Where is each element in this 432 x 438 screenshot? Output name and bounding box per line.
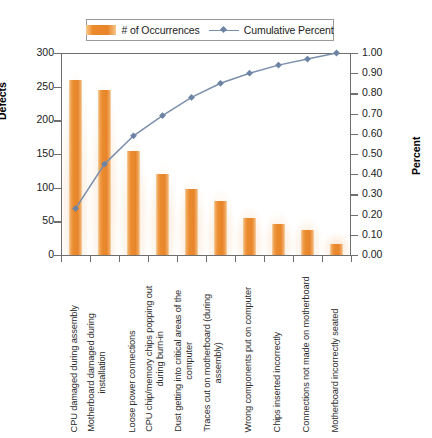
- category-label-line: Traces cut on motherboard (during: [202, 294, 213, 432]
- x-axis-tick-mark: [90, 255, 91, 262]
- x-axis-category-label: Loose power connections: [126, 330, 137, 432]
- y-axis-tick-label: 300: [10, 46, 54, 58]
- cumulative-line-marker: [217, 80, 224, 87]
- x-axis-tick-mark: [148, 255, 149, 262]
- category-label-line: Loose power connections: [126, 330, 137, 432]
- x-axis-tick-mark: [322, 255, 323, 262]
- cumulative-line-path: [76, 53, 337, 209]
- y2-axis-tick-label: 0.70: [362, 107, 382, 119]
- x-axis-category-label: Connections not made on motherboard: [300, 276, 311, 432]
- category-label-line: installation: [97, 313, 108, 432]
- y-axis-tick-mark: [54, 120, 61, 121]
- cumulative-line-marker: [333, 50, 340, 57]
- category-label-line: Motherboard incorrectly seated: [329, 308, 340, 432]
- y2-axis-tick-mark: [351, 174, 358, 175]
- y2-axis-tick-label: 0.30: [362, 187, 382, 199]
- x-axis-category-label: Dust getting into critical areas of thec…: [173, 290, 196, 432]
- cumulative-percent-line: [61, 53, 352, 256]
- y-axis-tick-label: 0: [10, 248, 54, 260]
- y2-axis-tick-mark: [351, 154, 358, 155]
- legend-item-occurrences: # of Occurrences: [86, 24, 199, 36]
- chart-legend: # of Occurrences Cumulative Percent: [86, 19, 334, 41]
- x-axis-tick-mark: [293, 255, 294, 262]
- cumulative-line-marker: [275, 62, 282, 69]
- y2-axis-tick-label: 0.90: [362, 66, 382, 78]
- category-label-line: Motherboard damaged during: [86, 313, 97, 432]
- category-label-line: Connections not made on motherboard: [300, 276, 311, 432]
- y2-axis-tick-label: 0.20: [362, 208, 382, 220]
- x-axis-category-label: CPU damaged during assembly: [68, 305, 79, 432]
- y2-axis-tick-label: 1.00: [362, 46, 382, 58]
- line-marker-icon: [209, 25, 239, 35]
- y2-axis-title: Percent: [410, 136, 422, 175]
- x-axis-tick-mark: [177, 255, 178, 262]
- pareto-chart: # of Occurrences Cumulative Percent 3002…: [0, 0, 432, 438]
- cumulative-line-marker: [246, 70, 253, 77]
- y-axis-title: Defects: [0, 82, 8, 120]
- category-label-line: CPU chip/memory chips popping out: [144, 286, 155, 432]
- y2-axis-tick-label: 0.60: [362, 127, 382, 139]
- y-axis-tick-label: 200: [10, 113, 54, 125]
- x-axis-tick-mark: [119, 255, 120, 262]
- y-axis-tick-mark: [54, 221, 61, 222]
- legend-item-cumulative: Cumulative Percent: [209, 24, 334, 36]
- cumulative-line-marker: [188, 94, 195, 101]
- y2-axis-tick-label: 0.10: [362, 228, 382, 240]
- x-axis-tick-mark: [206, 255, 207, 262]
- y-axis-tick-label: 50: [10, 214, 54, 226]
- y2-axis-tick-mark: [351, 53, 358, 54]
- y2-axis-tick-label: 0.50: [362, 147, 382, 159]
- y-axis-tick-label: 250: [10, 80, 54, 92]
- x-axis-category-label: Chips inserted incorrectly: [271, 332, 282, 432]
- y2-axis-tick-mark: [351, 194, 358, 195]
- y2-axis-tick-label: 0.00: [362, 248, 382, 260]
- y-axis-tick-mark: [54, 255, 61, 256]
- y2-axis-tick-mark: [351, 93, 358, 94]
- y-axis-tick-mark: [54, 154, 61, 155]
- category-label-line: CPU damaged during assembly: [68, 305, 79, 432]
- y-axis-tick-label: 150: [10, 147, 54, 159]
- legend-label-occurrences: # of Occurrences: [121, 24, 199, 36]
- y-axis-tick-mark: [54, 53, 61, 54]
- y2-axis-tick-label: 0.80: [362, 86, 382, 98]
- category-label-line: Chips inserted incorrectly: [271, 332, 282, 432]
- category-label-line: Wrong components put on computer: [242, 287, 253, 432]
- category-label-line: assembly): [213, 294, 224, 432]
- x-axis-tick-mark: [351, 255, 352, 262]
- y2-axis-tick-mark: [351, 235, 358, 236]
- x-axis-category-label: CPU chip/memory chips popping outduring …: [144, 286, 167, 432]
- bar-swatch-icon: [86, 25, 116, 35]
- y-axis-tick-label: 100: [10, 181, 54, 193]
- y2-axis-tick-mark: [351, 134, 358, 135]
- legend-label-cumulative: Cumulative Percent: [244, 24, 334, 36]
- category-label-line: computer: [184, 290, 195, 432]
- x-axis-category-label: Motherboard damaged duringinstallation: [86, 313, 109, 432]
- y2-axis-tick-mark: [351, 73, 358, 74]
- category-label-line: Dust getting into critical areas of the: [173, 290, 184, 432]
- y2-axis-tick-label: 0.40: [362, 167, 382, 179]
- y-axis-tick-mark: [54, 87, 61, 88]
- y2-axis-tick-mark: [351, 215, 358, 216]
- x-axis-category-label: Wrong components put on computer: [242, 287, 253, 432]
- category-label-line: during burn-in: [155, 286, 166, 432]
- x-axis-category-labels: CPU damaged during assemblyMotherboard d…: [0, 264, 432, 438]
- x-axis-category-label: Traces cut on motherboard (duringassembl…: [202, 294, 225, 432]
- x-axis-tick-mark: [61, 255, 62, 262]
- y2-axis-tick-mark: [351, 114, 358, 115]
- x-axis-tick-mark: [235, 255, 236, 262]
- x-axis-category-label: Motherboard incorrectly seated: [329, 308, 340, 432]
- cumulative-line-marker: [304, 56, 311, 63]
- y-axis-tick-mark: [54, 188, 61, 189]
- x-axis-tick-mark: [264, 255, 265, 262]
